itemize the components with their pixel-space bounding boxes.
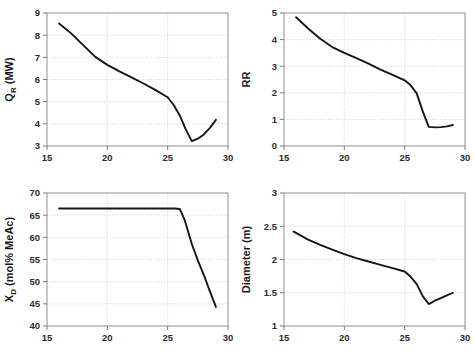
x-tick-label: 20 (102, 332, 113, 343)
x-tick-label: 30 (223, 152, 234, 163)
y-tick-label: 1 (272, 320, 278, 331)
y-tick-label: 50 (29, 276, 40, 287)
x-tick-label: 20 (102, 152, 113, 163)
y-tick-label: 5 (272, 7, 278, 18)
x-tick-label: 30 (460, 152, 471, 163)
y-axis-title: RR (240, 72, 252, 88)
y-tick-label: 40 (29, 320, 40, 331)
x-tick-label: 15 (279, 332, 290, 343)
y-tick-label: 0 (272, 140, 277, 151)
y-tick-label: 3 (272, 187, 277, 198)
chart-panel-reboiler-duty: 345678915202530QR (MW) (0, 0, 237, 181)
y-axis-title: XD (mol% MeAc) (3, 217, 18, 303)
chart-panel-column-diameter: 11.522.5315202530Diameter (m) (237, 180, 474, 361)
y-tick-label: 2 (272, 254, 277, 265)
y-tick-label: 8 (35, 30, 40, 41)
data-series-line (59, 209, 216, 307)
y-tick-label: 4 (272, 34, 278, 45)
x-tick-label: 15 (42, 332, 53, 343)
x-tick-label: 15 (42, 152, 53, 163)
plot-distillate-composition: 4045505560657015202530XD (mol% MeAc) (0, 180, 237, 361)
y-tick-label: 9 (35, 7, 40, 18)
x-tick-label: 25 (399, 152, 410, 163)
y-tick-label: 6 (35, 74, 40, 85)
x-tick-label: 20 (339, 152, 350, 163)
y-tick-label: 1 (272, 114, 278, 125)
chart-panel-reflux-ratio: 01234515202530RR (237, 0, 474, 181)
plot-frame (284, 13, 465, 146)
y-tick-label: 70 (29, 187, 40, 198)
x-tick-label: 25 (399, 332, 410, 343)
y-tick-label: 1.5 (264, 287, 278, 298)
four-panel-figure: 345678915202530QR (MW) 01234515202530RR … (0, 0, 474, 361)
plot-column-diameter: 11.522.5315202530Diameter (m) (237, 180, 474, 361)
data-series-line (296, 17, 453, 127)
plot-reboiler-duty: 345678915202530QR (MW) (0, 0, 237, 181)
chart-panel-distillate-composition: 4045505560657015202530XD (mol% MeAc) (0, 180, 237, 361)
data-series-line (59, 23, 216, 141)
y-tick-label: 3 (35, 140, 40, 151)
x-tick-label: 20 (339, 332, 350, 343)
y-tick-label: 4 (35, 118, 41, 129)
x-tick-label: 25 (162, 332, 173, 343)
y-tick-label: 2 (272, 87, 277, 98)
x-tick-label: 30 (223, 332, 234, 343)
plot-reflux-ratio: 01234515202530RR (237, 0, 474, 181)
y-axis-title: Diameter (m) (240, 226, 252, 294)
y-tick-label: 55 (29, 254, 40, 265)
y-tick-label: 60 (29, 232, 40, 243)
y-tick-label: 45 (29, 298, 40, 309)
y-tick-label: 3 (272, 61, 277, 72)
y-tick-label: 65 (29, 210, 40, 221)
y-tick-label: 5 (35, 96, 41, 107)
data-series-line (294, 232, 453, 304)
x-tick-label: 30 (460, 332, 471, 343)
y-tick-label: 2.5 (264, 221, 278, 232)
x-tick-label: 25 (162, 152, 173, 163)
y-tick-label: 7 (35, 52, 40, 63)
y-axis-title: QR (MW) (3, 57, 18, 102)
x-tick-label: 15 (279, 152, 290, 163)
